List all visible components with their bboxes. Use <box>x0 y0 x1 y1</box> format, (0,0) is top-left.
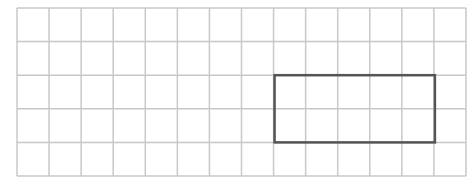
grid-lines <box>17 8 466 176</box>
grid-diagram <box>0 0 476 187</box>
